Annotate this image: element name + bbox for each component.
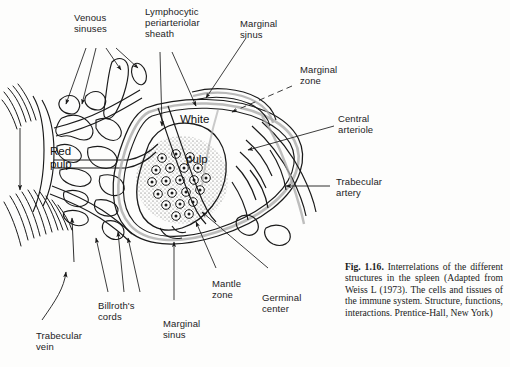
label-marginal-zone: Marginal zone <box>300 64 337 86</box>
leader-lines-venous-sinuses <box>66 48 138 104</box>
figure-page: Venous sinuses Lymphocytic periarteriola… <box>0 0 510 367</box>
label-trabecular-vein: Trabecular vein <box>36 330 82 352</box>
label-venous-sinuses: Venous sinuses <box>74 12 107 34</box>
label-white-pulp-line1: White <box>180 113 209 126</box>
label-marginal-sinus-top: Marginal sinus <box>240 18 277 40</box>
label-marginal-sinus-bottom: Marginal sinus <box>163 318 200 340</box>
leader-line-marginal-zone <box>232 86 292 112</box>
leader-lines-billroths-cords <box>96 232 140 292</box>
label-white-pulp-line2: pulp <box>186 153 208 166</box>
leader-line-central-arteriole <box>248 126 334 150</box>
label-mantle-zone: Mantle zone <box>212 278 241 300</box>
trabecular-artery-tree <box>232 122 316 245</box>
figure-number: Fig. 1.16. <box>345 261 384 272</box>
figure-caption: Fig. 1.16. Interrelations of the dif­fer… <box>345 261 503 318</box>
leader-line-trabecular-vein <box>42 272 66 320</box>
label-central-arteriole: Central arteriole <box>338 113 373 135</box>
label-lymphocytic-periarteriolar-sheath: Lymphocytic periarteriolar sheath <box>145 6 200 40</box>
label-germinal-center: Germinal center <box>262 292 301 314</box>
label-trabecular-artery: Trabecular artery <box>336 176 382 198</box>
venous-sinus-blobs <box>59 59 149 119</box>
label-red-pulp: Red pulp <box>50 145 72 171</box>
leader-line-mantle-zone <box>196 222 216 268</box>
label-billroths-cords: Billroth's cords <box>98 300 135 322</box>
